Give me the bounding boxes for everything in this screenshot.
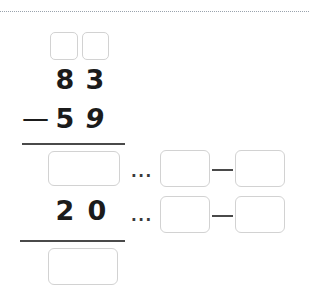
top-dotted-separator bbox=[0, 11, 309, 12]
decomposition-row-1-connector bbox=[212, 169, 233, 171]
regroup-ones-box[interactable] bbox=[82, 32, 109, 60]
decomposition-row-2-right-box[interactable] bbox=[235, 196, 285, 233]
minuend-ones-digit: 3 bbox=[84, 66, 106, 93]
ones-step-answer-box[interactable] bbox=[48, 151, 120, 186]
decomposition-row-2-connector bbox=[212, 215, 233, 217]
regroup-tens-box[interactable] bbox=[50, 32, 78, 60]
ellipsis-row-1: ... bbox=[131, 165, 153, 180]
decomposition-row-2-left-box[interactable] bbox=[160, 196, 210, 233]
minus-operator: — bbox=[22, 104, 49, 131]
subtrahend-tens-digit: 5 bbox=[54, 105, 76, 132]
subtrahend-ones-digit: 9 bbox=[84, 105, 106, 132]
ellipsis-row-2: ... bbox=[131, 209, 153, 224]
minuend-tens-digit: 8 bbox=[54, 66, 76, 93]
subtraction-rule-top bbox=[22, 143, 125, 145]
final-answer-box[interactable] bbox=[48, 248, 118, 285]
partial-result-ones-digit: 0 bbox=[86, 197, 108, 224]
partial-result-tens-digit: 2 bbox=[54, 197, 76, 224]
decomposition-row-1-right-box[interactable] bbox=[235, 150, 285, 187]
decomposition-row-1-left-box[interactable] bbox=[160, 150, 210, 187]
subtraction-rule-bottom bbox=[20, 240, 125, 242]
subtraction-worksheet: 8 3 — 5 9 ... 2 0 ... bbox=[0, 0, 309, 293]
